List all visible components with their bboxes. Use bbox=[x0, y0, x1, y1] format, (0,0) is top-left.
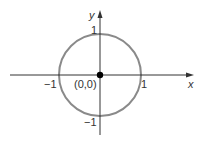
unit-circle-diagram: x y −1 1 1 −1 (0,0) bbox=[0, 0, 198, 142]
tick-y-neg: −1 bbox=[84, 116, 97, 128]
origin-label: (0,0) bbox=[74, 78, 97, 90]
x-axis-label: x bbox=[187, 78, 194, 90]
y-axis-arrow-icon bbox=[98, 10, 103, 18]
x-axis-arrow-icon bbox=[186, 73, 194, 78]
tick-x-pos: 1 bbox=[141, 78, 147, 90]
origin-point bbox=[97, 72, 103, 78]
tick-x-neg: −1 bbox=[44, 78, 57, 90]
tick-y-pos: 1 bbox=[91, 24, 97, 36]
y-axis-label: y bbox=[88, 9, 96, 21]
